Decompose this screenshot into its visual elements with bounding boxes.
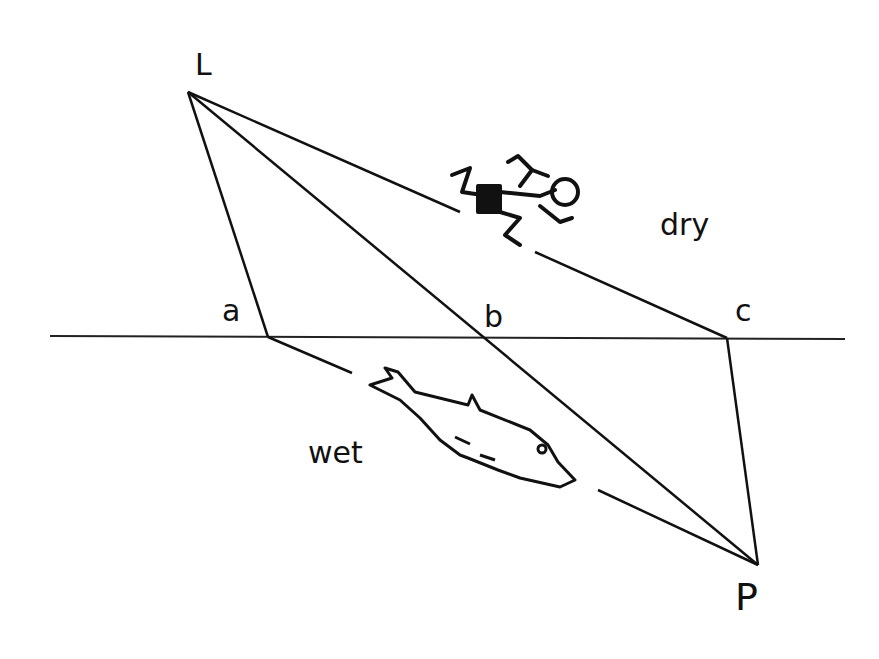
line-L-c-part2 — [535, 252, 727, 338]
diagram-canvas — [0, 0, 879, 659]
label-region-wet: wet — [308, 438, 363, 468]
label-point-b: b — [484, 302, 503, 332]
running-person-icon — [452, 156, 578, 245]
line-c-P — [727, 338, 758, 565]
label-point-L: L — [195, 50, 212, 80]
line-L-c-part1 — [188, 92, 460, 212]
dolphin-icon — [370, 368, 575, 487]
label-region-dry: dry — [660, 210, 709, 240]
label-point-a: a — [222, 296, 240, 326]
label-point-P: P — [735, 578, 758, 616]
line-a-P-part2 — [598, 490, 758, 565]
line-a-P-part1 — [268, 337, 352, 373]
line-L-P — [188, 92, 758, 565]
label-point-c: c — [735, 296, 752, 326]
